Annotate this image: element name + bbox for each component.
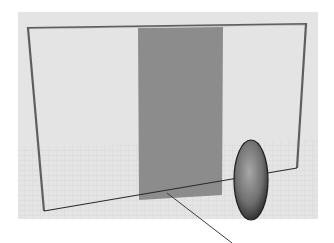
gray-panel[interactable]	[138, 27, 223, 200]
scene-canvas[interactable]	[0, 0, 334, 243]
ellipsoid-object[interactable]	[234, 140, 268, 220]
